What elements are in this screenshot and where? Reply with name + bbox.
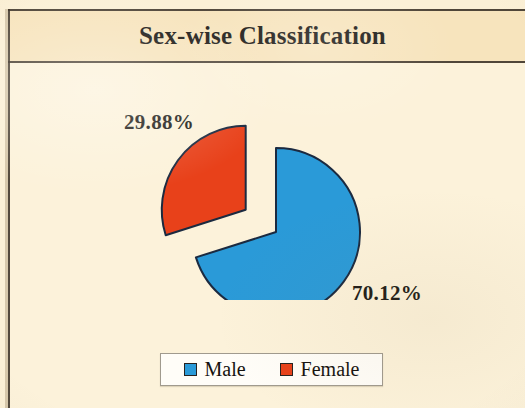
page-title: Sex-wise Classification — [10, 13, 515, 59]
data-label-female: 29.88% — [124, 110, 194, 135]
legend-item-male[interactable]: Male — [184, 360, 246, 380]
legend-swatch-female-icon — [280, 363, 293, 376]
chart-legend: Male Female — [160, 353, 383, 386]
pie-slice-female[interactable] — [162, 126, 246, 235]
legend-swatch-male-icon — [184, 363, 197, 376]
title-rule-top — [8, 9, 525, 11]
legend-label-female: Female — [301, 359, 360, 379]
frame-left-rule — [8, 9, 10, 408]
title-rule-bottom — [8, 61, 525, 63]
legend-label-male: Male — [205, 359, 246, 379]
data-label-male: 70.12% — [352, 281, 422, 306]
scanned-page: Sex-wise Classification 29.88% 70.12% Ma… — [0, 0, 525, 408]
legend-item-female[interactable]: Female — [280, 360, 360, 380]
